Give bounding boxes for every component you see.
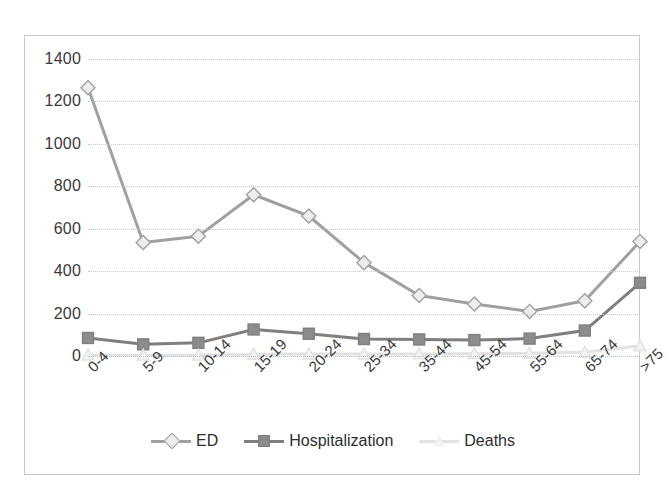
chart-container: 0200400600800100012001400 0-45-910-1415-… (24, 35, 640, 475)
gridline (88, 59, 640, 60)
series-ed (81, 81, 647, 319)
data-point (359, 334, 370, 345)
chart-legend: EDHospitalizationDeaths (25, 432, 641, 450)
data-point (248, 324, 259, 335)
gridline (88, 314, 640, 315)
data-point (469, 335, 480, 346)
gridline (88, 144, 640, 145)
gridline (88, 229, 640, 230)
plot-area (88, 59, 640, 356)
legend-label: Deaths (464, 432, 515, 450)
legend-item-ed[interactable]: ED (151, 432, 218, 450)
y-tick-label: 600 (54, 220, 81, 238)
legend-marker (164, 433, 181, 450)
y-tick-label: 1400 (45, 50, 81, 68)
gridline (88, 186, 640, 187)
data-point (523, 304, 537, 318)
data-point (136, 235, 150, 249)
data-point (524, 333, 535, 344)
gridline (88, 101, 640, 102)
y-tick-label: 800 (54, 177, 81, 195)
y-tick-label: 200 (54, 305, 81, 323)
y-tick-label: 1000 (45, 135, 81, 153)
legend-marker (433, 435, 445, 446)
data-point (83, 332, 94, 343)
data-point (193, 337, 204, 348)
data-point (303, 328, 314, 339)
legend-label: ED (196, 432, 218, 450)
data-point (635, 277, 646, 288)
data-point (467, 297, 481, 311)
y-axis: 0200400600800100012001400 (25, 59, 81, 356)
series-layer (88, 59, 640, 356)
legend-swatch-triangle-icon (419, 434, 459, 448)
series-line (88, 88, 640, 312)
legend-item-deaths[interactable]: Deaths (419, 432, 515, 450)
legend-swatch-diamond-icon (151, 434, 191, 448)
y-tick-label: 400 (54, 262, 81, 280)
legend-label: Hospitalization (289, 432, 393, 450)
data-point (414, 334, 425, 345)
legend-marker (258, 435, 270, 447)
y-tick-label: 0 (72, 347, 81, 365)
gridline (88, 356, 640, 357)
legend-swatch-square-icon (244, 434, 284, 448)
data-point (412, 288, 426, 302)
y-tick-label: 1200 (45, 92, 81, 110)
legend-item-hospitalization[interactable]: Hospitalization (244, 432, 393, 450)
x-axis: 0-45-910-1415-1920-2425-3435-4445-5455-6… (88, 363, 640, 443)
gridline (88, 271, 640, 272)
data-point (81, 81, 95, 95)
data-point (579, 325, 590, 336)
